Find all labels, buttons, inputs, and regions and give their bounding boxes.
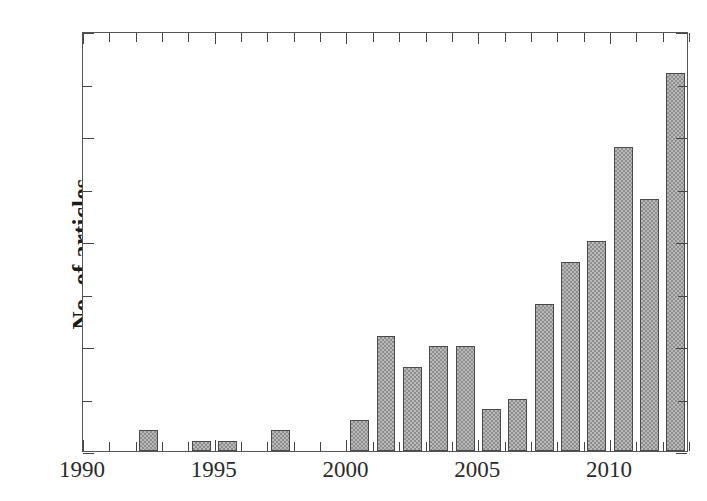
- x-tick-mark-top: [663, 33, 664, 42]
- x-tick-mark: [215, 440, 216, 451]
- y-tick-mark-right: [678, 296, 687, 297]
- x-tick-mark-top: [162, 33, 163, 42]
- x-tick-mark-top: [320, 33, 321, 42]
- x-tick-mark-top: [373, 33, 374, 42]
- x-tick-mark-top: [426, 33, 427, 42]
- x-tick-mark-top: [188, 33, 189, 42]
- y-tick-mark-right: [676, 348, 687, 349]
- x-tick-mark-top: [215, 33, 216, 44]
- x-tick-mark: [162, 442, 163, 451]
- bar: [456, 346, 475, 451]
- bar: [429, 346, 448, 451]
- y-tick-mark-right: [676, 243, 687, 244]
- plot-area: [82, 32, 688, 452]
- bar: [192, 441, 211, 452]
- x-tick-label: 1995: [169, 458, 259, 481]
- x-tick-mark-top: [478, 33, 479, 44]
- x-tick-mark-top: [557, 33, 558, 42]
- x-tick-mark-top: [610, 33, 611, 44]
- y-tick-mark-right: [678, 401, 687, 402]
- x-tick-mark-top: [505, 33, 506, 42]
- x-tick-mark: [294, 442, 295, 451]
- x-tick-mark: [373, 442, 374, 451]
- bar: [403, 367, 422, 451]
- y-tick-mark: [83, 86, 92, 87]
- y-tick-mark-right: [676, 138, 687, 139]
- x-tick-mark: [426, 442, 427, 451]
- x-tick-mark: [452, 442, 453, 451]
- x-tick-mark: [505, 442, 506, 451]
- y-tick-mark: [83, 348, 94, 349]
- bar: [614, 147, 633, 452]
- x-tick-mark: [689, 442, 690, 451]
- x-tick-label: 2010: [564, 458, 654, 481]
- bar: [218, 441, 237, 452]
- bar: [139, 430, 158, 451]
- bar: [561, 262, 580, 451]
- x-tick-label: 2005: [432, 458, 522, 481]
- y-tick-mark-right: [678, 191, 687, 192]
- y-tick-mark: [83, 453, 94, 454]
- x-tick-mark: [557, 442, 558, 451]
- x-tick-mark-top: [584, 33, 585, 42]
- y-tick-mark: [83, 191, 92, 192]
- y-tick-mark: [83, 138, 94, 139]
- x-tick-mark: [136, 442, 137, 451]
- x-tick-mark-top: [109, 33, 110, 42]
- bar: [535, 304, 554, 451]
- x-tick-mark: [636, 442, 637, 451]
- x-tick-mark: [188, 442, 189, 451]
- y-tick-mark-right: [678, 86, 687, 87]
- x-tick-mark-top: [83, 33, 84, 44]
- x-tick-mark-top: [294, 33, 295, 42]
- y-tick-mark-right: [676, 453, 687, 454]
- x-tick-label: 2000: [300, 458, 390, 481]
- x-tick-mark-top: [346, 33, 347, 44]
- x-tick-mark: [109, 442, 110, 451]
- x-tick-mark: [83, 440, 84, 451]
- bar: [271, 430, 290, 451]
- x-tick-mark: [531, 442, 532, 451]
- bar: [508, 399, 527, 452]
- bar-series: [83, 33, 687, 451]
- x-tick-mark-top: [689, 33, 690, 42]
- x-tick-mark-top: [452, 33, 453, 42]
- x-tick-mark-top: [267, 33, 268, 42]
- x-tick-mark: [241, 442, 242, 451]
- y-tick-mark-right: [676, 33, 687, 34]
- x-tick-mark: [399, 442, 400, 451]
- x-tick-mark: [478, 440, 479, 451]
- y-tick-mark: [83, 401, 92, 402]
- x-tick-mark: [267, 442, 268, 451]
- bar: [666, 73, 685, 451]
- chart-figure: No. of articles 010203040 19901995200020…: [0, 0, 707, 501]
- x-tick-mark: [346, 440, 347, 451]
- bar: [640, 199, 659, 451]
- x-tick-mark-top: [399, 33, 400, 42]
- x-tick-mark-top: [636, 33, 637, 42]
- x-tick-mark-top: [531, 33, 532, 42]
- bar: [350, 420, 369, 452]
- y-tick-mark: [83, 243, 94, 244]
- x-tick-mark: [584, 442, 585, 451]
- x-tick-mark: [663, 442, 664, 451]
- y-tick-mark: [83, 33, 94, 34]
- bar: [377, 336, 396, 452]
- y-tick-mark: [83, 296, 92, 297]
- x-tick-mark-top: [136, 33, 137, 42]
- bar: [482, 409, 501, 451]
- x-tick-mark: [320, 442, 321, 451]
- bar: [587, 241, 606, 451]
- x-tick-mark-top: [241, 33, 242, 42]
- x-tick-mark: [610, 440, 611, 451]
- x-tick-label: 1990: [37, 458, 127, 481]
